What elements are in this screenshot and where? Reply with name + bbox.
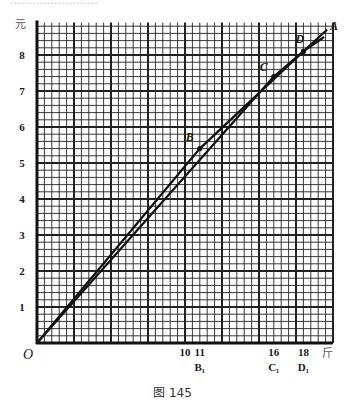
point-label-c: C xyxy=(260,60,269,74)
x-tick-label: 18 xyxy=(298,346,310,358)
x-tick-sublabel: D₁ xyxy=(298,361,309,373)
point-d-marker xyxy=(301,49,306,54)
x-tick-label: 11 xyxy=(195,346,205,358)
y-tick-label: 5 xyxy=(19,157,25,169)
y-tick-label: 1 xyxy=(19,301,25,313)
x-tick-sublabel: C₁ xyxy=(268,361,279,373)
y-tick-label: 3 xyxy=(19,229,25,241)
y-tick-label: 8 xyxy=(19,49,25,61)
price-weight-chart: BCDA12345678元1011B₁16C₁18D₁斤O xyxy=(0,0,355,380)
point-b-marker xyxy=(197,146,202,151)
point-label-d: D xyxy=(294,32,304,46)
x-tick-sublabel: B₁ xyxy=(194,361,205,373)
x-tick-label: 16 xyxy=(268,346,280,358)
point-label-b: B xyxy=(185,130,194,144)
y-axis-unit-label: 元 xyxy=(15,18,26,31)
point-label-a: A xyxy=(329,19,338,33)
y-tick-label: 2 xyxy=(19,265,25,277)
x-tick-label: 10 xyxy=(180,346,192,358)
y-tick-label: 7 xyxy=(19,85,25,97)
origin-label: O xyxy=(23,347,33,362)
figure-caption: 图 145 xyxy=(0,383,345,400)
x-axis-unit-label: 斤 xyxy=(322,347,333,360)
point-c-marker xyxy=(271,74,276,79)
y-tick-label: 4 xyxy=(19,193,25,205)
y-tick-label: 6 xyxy=(19,121,25,133)
